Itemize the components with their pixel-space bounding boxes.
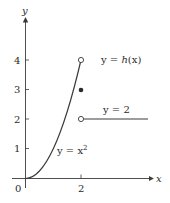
function-graph: y x 4 3 2 1 2 0 y = h(x) y = 2 y = x2 bbox=[0, 0, 170, 203]
constant-label: y = 2 bbox=[102, 104, 130, 115]
y-tick-label-4: 4 bbox=[14, 55, 20, 66]
parabola-label: y = x2 bbox=[56, 144, 88, 156]
h-function-label: y = h(x) bbox=[100, 54, 141, 65]
filled-point bbox=[79, 88, 84, 93]
y-ticks bbox=[26, 60, 30, 149]
open-endpoint-bottom bbox=[78, 116, 83, 121]
parabola-curve bbox=[26, 60, 82, 179]
y-axis-label: y bbox=[21, 5, 28, 16]
y-tick-label-1: 1 bbox=[14, 143, 20, 154]
x-axis-label: x bbox=[156, 173, 162, 184]
y-tick-label-2: 2 bbox=[14, 114, 20, 125]
origin-label: 0 bbox=[15, 183, 21, 194]
y-tick-label-3: 3 bbox=[14, 84, 20, 95]
open-endpoint-top bbox=[78, 57, 83, 62]
x-tick-label-2: 2 bbox=[78, 183, 84, 194]
